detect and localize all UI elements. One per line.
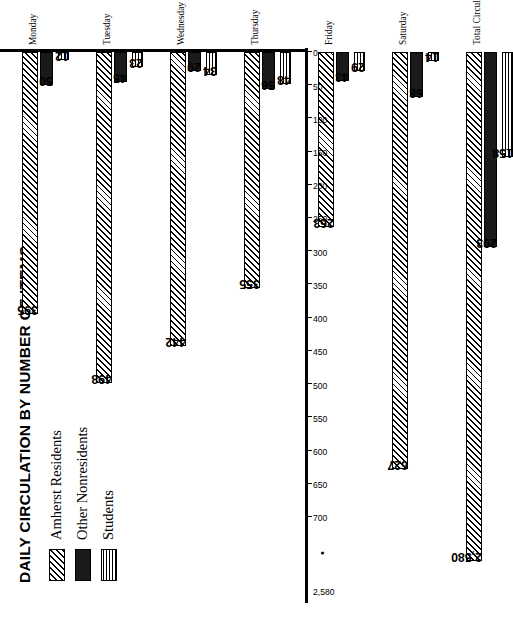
axis-tick-label: 0 [313, 48, 318, 58]
axis-tick [308, 516, 312, 517]
axis-tick [308, 84, 312, 85]
axis-tick-label: 350 [313, 281, 327, 291]
value-label: 158 [492, 146, 513, 160]
category-label-monday: Monday [28, 14, 38, 45]
axis-tick [308, 217, 312, 218]
axis-tick [308, 383, 312, 384]
bar-monday-amherst-residents [22, 52, 38, 314]
axis-tick-label: 700 [313, 513, 327, 523]
bar-tuesday-amherst-residents [96, 52, 112, 383]
axis-tick [308, 250, 312, 251]
bar-saturday-amherst-residents [392, 52, 408, 469]
legend-label-amherst-residents: Amherst Residents [48, 430, 65, 540]
bar-wednesday-amherst-residents [170, 52, 186, 346]
value-label: 2,580 [451, 550, 482, 564]
axis-tick-label: 200 [313, 181, 327, 191]
axis-tick-label: 600 [313, 447, 327, 457]
axis-tick [308, 350, 312, 351]
value-label: 29 [351, 60, 365, 74]
axis-tick [308, 117, 312, 118]
axis-tick [308, 450, 312, 451]
value-label: 498 [91, 372, 112, 386]
value-label: 293 [476, 236, 497, 250]
value-label: 29 [187, 60, 201, 74]
value-label: 68 [409, 86, 423, 100]
axis-break-marker: • [317, 551, 328, 555]
legend-item-amherst-residents: Amherst Residents [46, 427, 67, 581]
value-label: 12 [55, 49, 69, 63]
bar-total-circulation-amherst-residents [466, 52, 482, 561]
value-axis-line [305, 48, 308, 603]
axis-tick-label: 500 [313, 381, 327, 391]
value-label: 395 [17, 303, 38, 317]
legend-item-students: Students [98, 427, 119, 581]
legend-swatch-other-nonresidents [75, 549, 91, 581]
value-label: 48 [277, 73, 291, 87]
legend-swatch-students [101, 549, 117, 581]
category-label-tuesday: Tuesday [102, 14, 112, 45]
axis-tick-label: 450 [313, 347, 327, 357]
category-label-total-circulation: Total Circulation [472, 0, 482, 45]
value-label: 627 [387, 458, 408, 472]
value-label: 45 [113, 71, 127, 85]
bar-thursday-amherst-residents [244, 52, 260, 288]
value-label: 56 [261, 78, 275, 92]
category-label-saturday: Saturday [398, 12, 408, 45]
legend-label-other-nonresidents: Other Nonresidents [74, 427, 91, 540]
axis-tick [308, 483, 312, 484]
bar-total-circulation-students [502, 52, 513, 157]
category-label-wednesday: Wednesday [176, 2, 186, 45]
axis-tick [308, 416, 312, 417]
legend-label-students: Students [100, 490, 117, 540]
axis-tick-label: 400 [313, 314, 327, 324]
value-label: 50 [39, 74, 53, 88]
chart-legend: Amherst Residents Other Nonresidents Stu… [46, 427, 124, 581]
axis-tick-label: 550 [313, 414, 327, 424]
axis-tick [308, 184, 312, 185]
axis-tick [308, 51, 312, 52]
value-label: 14 [425, 50, 439, 64]
legend-swatch-amherst-residents [49, 549, 65, 581]
legend-item-other-nonresidents: Other Nonresidents [72, 427, 93, 581]
axis-tick [308, 284, 312, 285]
value-label: 23 [129, 56, 143, 70]
axis-tick-label: 300 [313, 248, 327, 258]
axis-tick-label: 100 [313, 115, 327, 125]
category-label-friday: Friday [324, 21, 334, 45]
axis-tick-label: 50 [313, 82, 323, 92]
axis-tick-label: 650 [313, 480, 327, 490]
value-label: 355 [239, 277, 260, 291]
axis-tick-label: 150 [313, 148, 327, 158]
axis-tick-label: 2,580 [313, 587, 335, 597]
category-label-thursday: Thursday [250, 10, 260, 45]
value-label: 263 [313, 216, 334, 230]
value-label: 34 [203, 64, 217, 78]
value-label: 442 [165, 335, 186, 349]
axis-tick [308, 151, 312, 152]
bar-friday-amherst-residents [318, 52, 334, 227]
value-label: 43 [335, 70, 349, 84]
axis-tick [308, 317, 312, 318]
